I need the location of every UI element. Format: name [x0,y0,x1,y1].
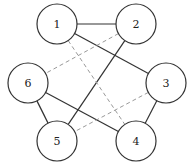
node-label: 1 [54,18,61,31]
node-2: 2 [116,4,156,44]
edge-3-4-solid [145,101,157,123]
edge-6-5-solid [37,101,48,123]
node-5: 5 [37,121,77,161]
node-4: 4 [116,121,156,161]
node-label: 5 [54,135,61,148]
node-1: 1 [37,4,77,44]
node-6: 6 [8,63,48,103]
node-label: 2 [133,18,140,31]
node-label: 3 [163,77,170,90]
graph-diagram: 123456 [0,0,192,164]
node-label: 6 [25,77,32,90]
node-label: 4 [133,135,140,148]
node-3: 3 [146,63,186,103]
